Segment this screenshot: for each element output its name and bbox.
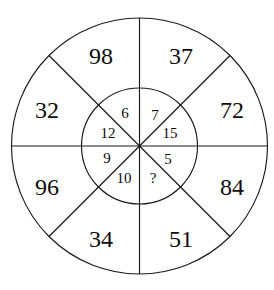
outer-cell-sse: 51 xyxy=(169,227,193,251)
inner-cell-wnw: 12 xyxy=(101,126,116,141)
inner-cell-nnw: 6 xyxy=(121,106,129,121)
inner-cell-ssw: 10 xyxy=(117,171,132,186)
outer-cell-ssw: 34 xyxy=(89,227,113,251)
circle-puzzle-figure: 98 37 72 84 51 34 96 32 6 7 15 5 ? 10 9 … xyxy=(0,0,274,290)
outer-cell-nne: 37 xyxy=(169,44,193,68)
inner-cell-ene: 15 xyxy=(163,126,178,141)
puzzle-diagram xyxy=(0,0,274,290)
outer-cell-wnw: 32 xyxy=(35,98,59,122)
inner-cell-sse: ? xyxy=(150,171,157,186)
outer-cell-ene: 72 xyxy=(220,98,244,122)
inner-cell-wsw: 9 xyxy=(103,151,111,166)
inner-cell-ese: 5 xyxy=(164,152,172,167)
outer-cell-nnw: 98 xyxy=(89,44,113,68)
inner-cell-nne: 7 xyxy=(151,108,159,123)
outer-cell-wsw: 96 xyxy=(35,175,59,199)
outer-cell-ese: 84 xyxy=(220,175,244,199)
